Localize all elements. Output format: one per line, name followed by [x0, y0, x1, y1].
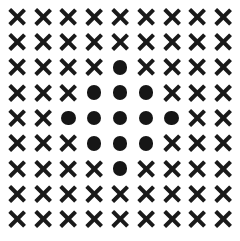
grid-cell [159, 80, 185, 105]
dot-icon [139, 85, 154, 100]
cross-icon [137, 8, 154, 25]
cross-icon [86, 160, 103, 177]
grid-cell [133, 4, 159, 29]
cross-icon [137, 160, 154, 177]
grid-cell [184, 4, 210, 29]
cross-icon [8, 185, 25, 202]
cross-icon [60, 211, 77, 228]
grid-cell [184, 207, 210, 232]
grid-cell [107, 55, 133, 80]
cross-icon [215, 33, 232, 50]
cross-icon [86, 33, 103, 50]
cross-icon [8, 33, 25, 50]
dot-icon [113, 60, 128, 75]
grid-cell [4, 207, 30, 232]
grid-cell [30, 181, 56, 206]
cross-icon [8, 160, 25, 177]
cross-icon [8, 84, 25, 101]
grid-cell [159, 131, 185, 156]
cross-icon [215, 135, 232, 152]
cross-icon [137, 185, 154, 202]
cross-icon [137, 33, 154, 50]
grid-cell [159, 207, 185, 232]
grid-cell [210, 4, 236, 29]
grid-cell [30, 80, 56, 105]
grid-cell [133, 131, 159, 156]
cross-icon [34, 185, 51, 202]
cross-icon [215, 160, 232, 177]
grid-cell [4, 105, 30, 130]
grid-cell [159, 156, 185, 181]
cross-icon [34, 33, 51, 50]
cross-icon [34, 84, 51, 101]
grid-cell [4, 181, 30, 206]
grid-cell [159, 4, 185, 29]
cross-icon [215, 84, 232, 101]
grid-cell [184, 131, 210, 156]
cross-icon [60, 33, 77, 50]
grid-cell [210, 55, 236, 80]
cross-icon [34, 109, 51, 126]
grid-cell [30, 156, 56, 181]
cross-icon [111, 185, 128, 202]
grid-cell [107, 80, 133, 105]
cross-icon [34, 160, 51, 177]
grid-cell [81, 105, 107, 130]
grid-cell [210, 105, 236, 130]
grid-cell [81, 181, 107, 206]
cross-icon [34, 59, 51, 76]
grid-cell [4, 4, 30, 29]
cross-icon [8, 109, 25, 126]
grid-cell [159, 29, 185, 54]
cross-icon [189, 84, 206, 101]
cross-icon [60, 135, 77, 152]
grid-cell [30, 55, 56, 80]
grid-cell [210, 80, 236, 105]
grid-cell [133, 181, 159, 206]
cross-icon [163, 211, 180, 228]
grid-cell [81, 156, 107, 181]
grid-cell [133, 156, 159, 181]
grid-cell [56, 4, 82, 29]
cross-icon [8, 8, 25, 25]
grid-cell [81, 4, 107, 29]
grid-cell [210, 156, 236, 181]
cross-icon [60, 59, 77, 76]
grid-cell [30, 207, 56, 232]
grid-cell [81, 207, 107, 232]
grid-cell [107, 181, 133, 206]
cross-icon [34, 211, 51, 228]
grid-cell [107, 131, 133, 156]
cross-icon [111, 211, 128, 228]
cross-icon [163, 160, 180, 177]
grid-cell [56, 131, 82, 156]
dot-icon [164, 111, 179, 126]
cross-icon [60, 8, 77, 25]
symbol-grid [4, 4, 236, 232]
grid-cell [133, 105, 159, 130]
grid-cell [133, 55, 159, 80]
cross-icon [8, 135, 25, 152]
grid-cell [184, 156, 210, 181]
cross-icon [8, 59, 25, 76]
cross-icon [189, 211, 206, 228]
grid-cell [184, 105, 210, 130]
cross-icon [163, 33, 180, 50]
grid-cell [159, 55, 185, 80]
cross-icon [137, 59, 154, 76]
cross-icon [8, 211, 25, 228]
cross-icon [189, 160, 206, 177]
grid-cell [210, 207, 236, 232]
grid-cell [107, 29, 133, 54]
cross-icon [86, 211, 103, 228]
dot-icon [87, 85, 102, 100]
cross-icon [215, 109, 232, 126]
grid-cell [159, 181, 185, 206]
dot-icon [113, 85, 128, 100]
grid-cell [4, 80, 30, 105]
cross-icon [215, 211, 232, 228]
grid-cell [4, 55, 30, 80]
grid-cell [81, 131, 107, 156]
cross-icon [111, 33, 128, 50]
grid-cell [210, 29, 236, 54]
